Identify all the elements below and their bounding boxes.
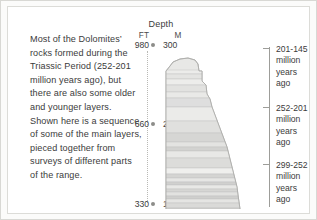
strata-band: [158, 203, 246, 208]
age-label: 252-201millionyearsago: [276, 103, 317, 149]
age-label-line: 201-145: [276, 44, 317, 55]
strata-svg: [158, 37, 246, 209]
depth-tick-dot: [151, 202, 155, 206]
strata-band: [158, 85, 246, 92]
infographic-frame: Most of the Dolomites’ rocks formed duri…: [7, 6, 310, 214]
strata-band: [158, 174, 246, 178]
strata-band: [158, 121, 246, 133]
strata-band: [158, 158, 246, 168]
strata-band: [158, 199, 246, 203]
strata-band: [158, 98, 246, 107]
age-label-line: million: [276, 171, 317, 182]
age-label-line: ago: [276, 137, 317, 148]
age-label-line: million: [276, 114, 317, 125]
strata-cross-section: [158, 37, 246, 209]
age-label-line: years: [276, 183, 317, 194]
strata-band: [158, 133, 246, 142]
infographic-root: Most of the Dolomites’ rocks formed duri…: [0, 0, 317, 220]
age-bracket-tick: [263, 48, 269, 49]
narrative-paragraph: Most of the Dolomites’ rocks formed duri…: [30, 33, 142, 183]
age-label: 299-252millionyearsago: [276, 160, 317, 206]
strata-band: [158, 192, 246, 196]
depth-tick-dot: [151, 43, 155, 47]
strata-band: [158, 151, 246, 158]
age-label-line: years: [276, 126, 317, 137]
strata-band: [158, 107, 246, 121]
age-bracket-line: [269, 47, 270, 207]
age-label: 201-145millionyearsago: [276, 44, 317, 90]
depth-tick-dot: [151, 122, 155, 126]
depth-tick-ft-value: 980: [121, 40, 149, 50]
strata-band: [158, 189, 246, 192]
age-label-line: 252-201: [276, 103, 317, 114]
depth-axis-title: Depth: [130, 19, 192, 29]
strata-band: [158, 178, 246, 182]
strata-band: [158, 196, 246, 199]
age-bracket-tick: [263, 164, 269, 165]
narrative-text: Most of the Dolomites’ rocks formed duri…: [30, 33, 142, 183]
strata-band: [158, 182, 246, 185]
age-label-line: million: [276, 55, 317, 66]
age-bracket-tick: [263, 107, 269, 108]
age-label-line: 299-252: [276, 160, 317, 171]
age-label-line: years: [276, 67, 317, 78]
strata-band: [158, 92, 246, 98]
age-label-line: ago: [276, 194, 317, 205]
age-label-line: ago: [276, 78, 317, 89]
strata-band: [158, 147, 246, 151]
strata-band: [158, 142, 246, 147]
strata-layers: [158, 70, 246, 209]
depth-tick-ft-value: 660: [121, 119, 149, 129]
strata-band: [158, 185, 246, 189]
depth-tick-ft-value: 330: [121, 199, 149, 209]
